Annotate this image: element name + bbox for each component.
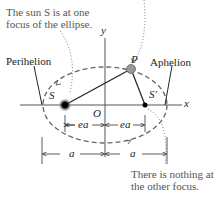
note-line: The sun S is at one [6,6,92,18]
sun-icon [58,98,72,112]
note-line: focus of the ellipse. [6,18,92,30]
aphelion-label: Aphelion [150,56,191,68]
note-line: There is nothing at [131,168,214,180]
planet-icon [127,65,136,74]
sun-focus-label: S [49,89,55,101]
perihelion-label: Perihelion [6,55,51,67]
x-axis-label: x [184,97,189,109]
other-focus-note: There is nothing at the other focus. [131,168,214,192]
empty-focus-label: S' [149,88,157,100]
ea-right-label: ea [120,118,130,130]
ea-left-label: ea [78,118,88,130]
sprime-p-line [131,69,145,105]
note-line: the other focus. [131,180,214,192]
y-axis-label: y [101,24,106,36]
empty-focus-dot [143,103,148,108]
a-left-label: a [69,147,75,159]
origin-label: O [93,107,101,119]
sun-focus-note: The sun S is at one focus of the ellipse… [6,6,92,30]
sp-line [65,69,131,105]
a-right-label: a [130,147,136,159]
planet-label: P [131,53,138,65]
